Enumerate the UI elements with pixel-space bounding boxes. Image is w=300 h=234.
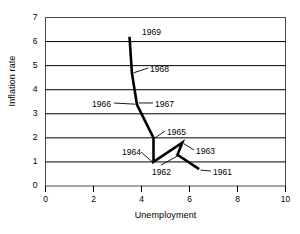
y-tick-label: 5: [18, 60, 38, 70]
phillips-curve-chart: Inflation rate Unemployment 01234567 024…: [0, 0, 300, 234]
y-tick-label: 0: [18, 180, 38, 190]
data-point-label: 1962: [152, 167, 171, 177]
y-tick-label: 6: [18, 36, 38, 46]
x-tick-label: 4: [132, 194, 152, 204]
y-tick-label: 7: [18, 12, 38, 22]
y-tick-label: 3: [18, 108, 38, 118]
x-axis-title: Unemployment: [45, 210, 286, 220]
x-tick-label: 10: [276, 194, 296, 204]
data-point-label: 1966: [92, 99, 111, 109]
data-point-label: 1963: [196, 146, 215, 156]
data-point-label: 1967: [155, 99, 174, 109]
y-tick-label: 2: [18, 132, 38, 142]
data-point-label: 1961: [213, 167, 232, 177]
data-point-label: 1969: [142, 27, 161, 37]
x-axis-ticks: [46, 186, 286, 192]
x-tick-label: 0: [36, 194, 56, 204]
y-tick-label: 4: [18, 84, 38, 94]
y-tick-label: 1: [18, 156, 38, 166]
data-point-label: 1968: [150, 64, 169, 74]
y-axis-title: Inflation rate: [7, 39, 17, 123]
data-point-label: 1965: [167, 127, 186, 137]
x-tick-label: 8: [228, 194, 248, 204]
x-tick-label: 2: [84, 194, 104, 204]
x-tick-label: 6: [180, 194, 200, 204]
data-point-label: 1964: [122, 147, 141, 157]
